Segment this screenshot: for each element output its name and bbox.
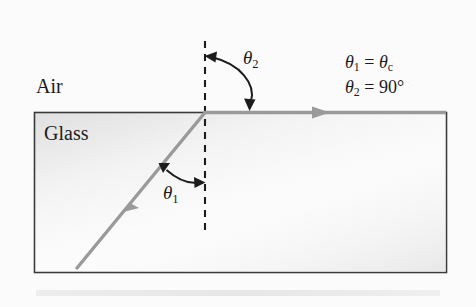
- equation-2-operator: =: [360, 77, 379, 97]
- equation-2-rhs-value: 90°: [379, 77, 404, 97]
- theta2-symbol: θ: [243, 47, 252, 68]
- diagram-canvas: [0, 0, 476, 307]
- equation-theta2-equals-90: θ2 = 90°: [345, 78, 404, 99]
- equation-2-lhs-symbol: θ: [345, 77, 354, 97]
- optics-diagram: Air Glass θ2 θ1 θ1 = θc θ2 = 90°: [0, 0, 476, 307]
- bottom-shadow-strip: [36, 290, 440, 296]
- equation-theta1-equals-thetac: θ1 = θc: [345, 53, 393, 74]
- theta2-label: θ2: [243, 48, 259, 70]
- equation-1-rhs-subscript: c: [388, 60, 393, 74]
- theta1-subscript: 1: [172, 192, 178, 206]
- equation-1-rhs-symbol: θ: [379, 52, 388, 72]
- air-region-label: Air: [36, 76, 63, 96]
- glass-block: [35, 113, 447, 273]
- equation-1-operator: =: [360, 52, 379, 72]
- glass-region-label: Glass: [44, 123, 88, 143]
- theta1-label: θ1: [163, 183, 179, 205]
- theta1-symbol: θ: [163, 182, 172, 203]
- theta2-subscript: 2: [252, 57, 258, 71]
- equation-1-lhs-symbol: θ: [345, 52, 354, 72]
